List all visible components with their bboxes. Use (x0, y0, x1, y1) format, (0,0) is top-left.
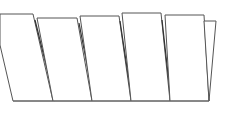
panel-5 (165, 15, 209, 101)
folding-screen-diagram (0, 0, 239, 129)
diagram-svg (0, 0, 239, 129)
panel-group (0, 13, 216, 101)
